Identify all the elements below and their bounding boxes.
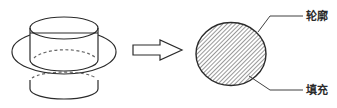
label-fill: 填充 — [306, 85, 328, 97]
leader-line-outline — [258, 16, 303, 32]
diagram-canvas — [0, 0, 337, 108]
solid-figure — [12, 17, 116, 99]
label-outline: 轮廓 — [306, 11, 328, 23]
cross-section — [196, 23, 266, 86]
lower-cylinder — [30, 80, 98, 99]
leader-line-fill — [249, 76, 303, 90]
arrow-icon — [133, 40, 182, 60]
